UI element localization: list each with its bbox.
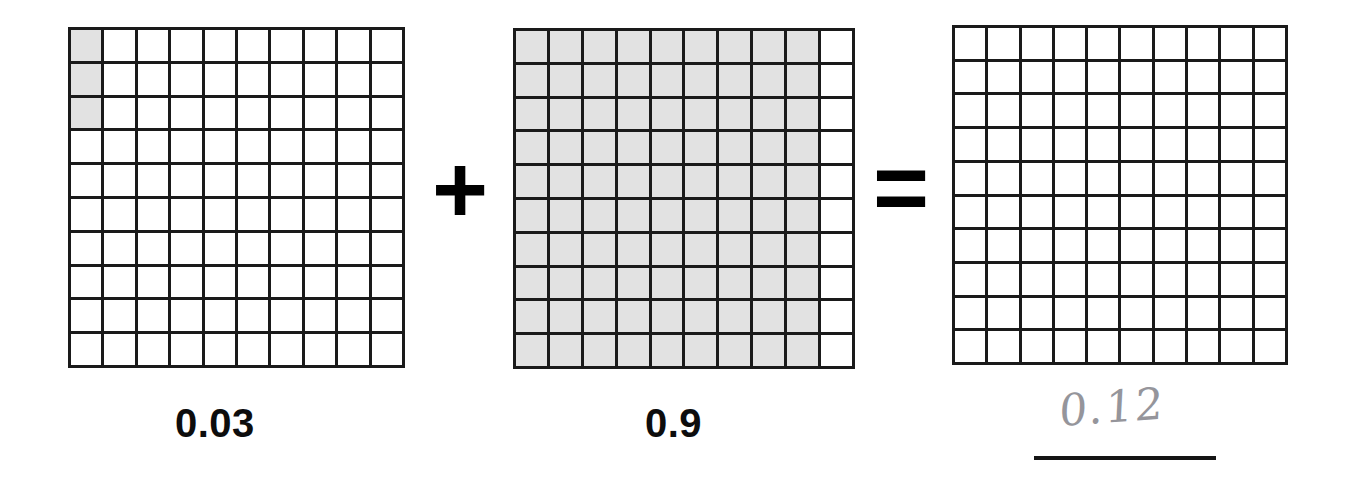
grid-cell-empty[interactable] (988, 298, 1018, 329)
grid-cell-shaded[interactable] (618, 301, 649, 332)
grid-cell-empty[interactable] (988, 28, 1018, 59)
grid-cell-shaded[interactable] (753, 65, 784, 96)
grid-cell-empty[interactable] (138, 131, 168, 162)
grid-cell-empty[interactable] (338, 300, 368, 331)
grid-cell-empty[interactable] (305, 64, 335, 95)
grid-cell-empty[interactable] (1022, 298, 1052, 329)
grid-cell-shaded[interactable] (719, 234, 750, 265)
first-addend-grid[interactable] (68, 27, 405, 368)
grid-cell-shaded[interactable] (719, 31, 750, 62)
grid-cell-shaded[interactable] (516, 166, 547, 197)
grid-cell-shaded[interactable] (71, 64, 101, 95)
grid-cell-empty[interactable] (1022, 129, 1052, 160)
grid-cell-empty[interactable] (1121, 95, 1151, 126)
grid-cell-empty[interactable] (71, 233, 101, 264)
grid-cell-empty[interactable] (338, 165, 368, 196)
grid-cell-shaded[interactable] (787, 65, 818, 96)
grid-cell-empty[interactable] (104, 131, 134, 162)
second-addend-grid[interactable] (513, 28, 855, 369)
grid-cell-empty[interactable] (238, 300, 268, 331)
grid-cell-empty[interactable] (1022, 197, 1052, 228)
grid-cell-shaded[interactable] (618, 268, 649, 299)
grid-cell-empty[interactable] (1121, 129, 1151, 160)
grid-cell-empty[interactable] (1121, 331, 1151, 362)
grid-cell-empty[interactable] (205, 233, 235, 264)
grid-cell-shaded[interactable] (584, 132, 615, 163)
grid-cell-empty[interactable] (1155, 197, 1185, 228)
grid-cell-empty[interactable] (171, 300, 201, 331)
grid-cell-empty[interactable] (988, 62, 1018, 93)
grid-cell-empty[interactable] (1121, 298, 1151, 329)
grid-cell-shaded[interactable] (550, 335, 581, 366)
grid-cell-shaded[interactable] (652, 301, 683, 332)
grid-cell-shaded[interactable] (652, 200, 683, 231)
grid-cell-shaded[interactable] (550, 132, 581, 163)
grid-cell-empty[interactable] (1088, 331, 1118, 362)
grid-cell-empty[interactable] (171, 334, 201, 365)
grid-cell-shaded[interactable] (584, 31, 615, 62)
grid-cell-empty[interactable] (138, 165, 168, 196)
grid-cell-empty[interactable] (271, 131, 301, 162)
grid-cell-empty[interactable] (238, 199, 268, 230)
grid-cell-shaded[interactable] (550, 301, 581, 332)
grid-cell-empty[interactable] (1155, 163, 1185, 194)
grid-cell-empty[interactable] (271, 334, 301, 365)
grid-cell-empty[interactable] (71, 300, 101, 331)
grid-cell-empty[interactable] (71, 334, 101, 365)
grid-cell-shaded[interactable] (753, 301, 784, 332)
grid-cell-shaded[interactable] (584, 335, 615, 366)
grid-cell-empty[interactable] (305, 267, 335, 298)
grid-cell-shaded[interactable] (584, 200, 615, 231)
grid-cell-empty[interactable] (205, 30, 235, 61)
grid-cell-empty[interactable] (71, 165, 101, 196)
grid-cell-empty[interactable] (1188, 298, 1218, 329)
grid-cell-empty[interactable] (338, 98, 368, 129)
grid-cell-shaded[interactable] (719, 335, 750, 366)
grid-cell-shaded[interactable] (753, 335, 784, 366)
grid-cell-empty[interactable] (1055, 230, 1085, 261)
grid-cell-empty[interactable] (1188, 163, 1218, 194)
grid-cell-shaded[interactable] (719, 200, 750, 231)
grid-cell-empty[interactable] (1055, 197, 1085, 228)
grid-cell-empty[interactable] (1188, 230, 1218, 261)
grid-cell-empty[interactable] (1088, 28, 1118, 59)
grid-cell-empty[interactable] (171, 165, 201, 196)
grid-cell-shaded[interactable] (618, 132, 649, 163)
grid-cell-shaded[interactable] (652, 166, 683, 197)
grid-cell-empty[interactable] (988, 331, 1018, 362)
grid-cell-empty[interactable] (171, 233, 201, 264)
grid-cell-shaded[interactable] (516, 99, 547, 130)
grid-cell-empty[interactable] (1255, 95, 1285, 126)
grid-cell-empty[interactable] (372, 300, 402, 331)
grid-cell-empty[interactable] (955, 331, 985, 362)
grid-cell-empty[interactable] (1155, 230, 1185, 261)
grid-cell-empty[interactable] (372, 165, 402, 196)
grid-cell-empty[interactable] (1155, 331, 1185, 362)
grid-cell-empty[interactable] (238, 267, 268, 298)
grid-cell-empty[interactable] (1121, 163, 1151, 194)
grid-cell-shaded[interactable] (787, 268, 818, 299)
grid-cell-empty[interactable] (1055, 129, 1085, 160)
grid-cell-empty[interactable] (1055, 28, 1085, 59)
grid-cell-empty[interactable] (205, 165, 235, 196)
grid-cell-shaded[interactable] (516, 65, 547, 96)
grid-cell-shaded[interactable] (584, 99, 615, 130)
grid-cell-empty[interactable] (305, 30, 335, 61)
grid-cell-empty[interactable] (138, 267, 168, 298)
grid-cell-shaded[interactable] (685, 234, 716, 265)
grid-cell-empty[interactable] (338, 233, 368, 264)
grid-cell-shaded[interactable] (618, 335, 649, 366)
grid-cell-shaded[interactable] (516, 200, 547, 231)
grid-cell-empty[interactable] (171, 30, 201, 61)
grid-cell-shaded[interactable] (753, 200, 784, 231)
grid-cell-empty[interactable] (372, 98, 402, 129)
grid-cell-shaded[interactable] (618, 31, 649, 62)
grid-cell-empty[interactable] (171, 98, 201, 129)
grid-cell-empty[interactable] (1022, 331, 1052, 362)
grid-cell-shaded[interactable] (787, 99, 818, 130)
grid-cell-shaded[interactable] (618, 65, 649, 96)
grid-cell-shaded[interactable] (618, 234, 649, 265)
grid-cell-empty[interactable] (338, 267, 368, 298)
grid-cell-empty[interactable] (955, 95, 985, 126)
grid-cell-shaded[interactable] (652, 132, 683, 163)
